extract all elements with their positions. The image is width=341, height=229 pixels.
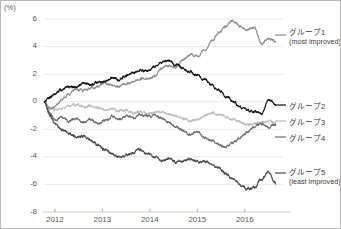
gridlines-group [43, 19, 291, 212]
legend-entry-4[interactable]: グループ4 [289, 135, 325, 144]
legend-series-name: グループ4 [289, 135, 325, 144]
series-line-5 [44, 102, 275, 190]
series-line-3 [44, 101, 275, 126]
y-tick-label: -6 [9, 179, 37, 188]
legend-entry-1[interactable]: グループ1(most improved) [289, 29, 341, 46]
x-tick-label: 2015 [179, 215, 215, 224]
y-tick-label: 4 [9, 41, 37, 50]
x-tick-label: 2014 [132, 215, 168, 224]
legend-swatch-group [275, 35, 286, 173]
series-line-1 [44, 20, 275, 109]
y-tick-label: 0 [9, 96, 37, 105]
legend-series-name: グループ2 [289, 103, 325, 112]
legend-series-annotation: (least improved) [289, 178, 341, 186]
x-tick-label: 2012 [37, 215, 73, 224]
x-tick-label: 2016 [227, 215, 263, 224]
y-tick-label: -4 [9, 151, 37, 160]
y-tick-label: -8 [9, 207, 37, 216]
y-axis-unit-label: (%) [4, 3, 16, 12]
legend-series-annotation: (most improved) [289, 38, 341, 46]
y-tick-label: 2 [9, 69, 37, 78]
series-line-4 [44, 102, 275, 148]
y-tick-label: -2 [9, 124, 37, 133]
x-tick-label: 2013 [84, 215, 120, 224]
legend-series-name: グループ3 [289, 119, 325, 128]
legend-entry-3[interactable]: グループ3 [289, 119, 325, 128]
legend-entry-2[interactable]: グループ2 [289, 103, 325, 112]
chart-figure: (%) 6420-2-4-6-8 20122013201420152016 グル… [0, 0, 341, 229]
legend-entry-5[interactable]: グループ5(least improved) [289, 169, 341, 186]
series-group [44, 20, 275, 190]
y-tick-label: 6 [9, 14, 37, 23]
xtick-marks-group [55, 209, 245, 212]
